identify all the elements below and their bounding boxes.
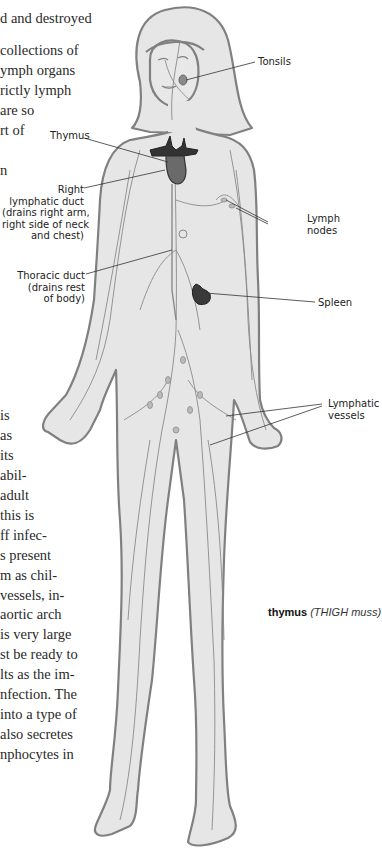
label-right-lymphatic-duct: Right lymphatic duct (drains right arm, …	[2, 184, 84, 242]
label-tonsils: Tonsils	[258, 56, 291, 68]
label-lymphatic-vessels: Lymphatic vessels	[328, 398, 379, 421]
tonsils	[179, 75, 187, 85]
label-thymus: Thymus	[50, 130, 90, 142]
label-spleen: Spleen	[318, 297, 352, 309]
glossary-pronunciation: (THIGH muss)	[310, 606, 381, 618]
lymphatic-system-figure	[0, 0, 382, 850]
glossary-entry: thymus (THIGH muss)	[268, 606, 381, 618]
face	[150, 41, 198, 107]
label-thoracic-duct: Thoracic duct (drains rest of body)	[0, 270, 85, 305]
label-lymph-nodes: Lymph nodes	[307, 213, 340, 236]
glossary-term: thymus	[268, 606, 307, 618]
